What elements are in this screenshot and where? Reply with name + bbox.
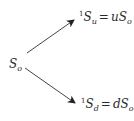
root-symbol: S <box>9 57 17 71</box>
down-equals: = <box>101 97 111 111</box>
down-rhs-subscript: o <box>129 104 134 113</box>
down-node-label: 1Sd=dSo <box>81 98 134 113</box>
down-arrow <box>25 68 75 103</box>
up-equals: = <box>99 10 109 24</box>
down-rhs-symbol: S <box>121 97 129 111</box>
up-subscript: u <box>92 17 97 26</box>
up-rhs-subscript: o <box>127 17 132 26</box>
up-symbol: S <box>83 10 91 24</box>
up-node-label: 1Su=uSo <box>79 11 132 26</box>
up-factor: u <box>111 10 119 24</box>
root-subscript: o <box>17 64 22 73</box>
up-arrow <box>27 20 74 53</box>
root-node-label: So <box>9 58 22 73</box>
down-factor: d <box>113 97 121 111</box>
down-symbol: S <box>85 97 93 111</box>
up-rhs-symbol: S <box>119 10 127 24</box>
down-subscript: d <box>94 104 99 113</box>
